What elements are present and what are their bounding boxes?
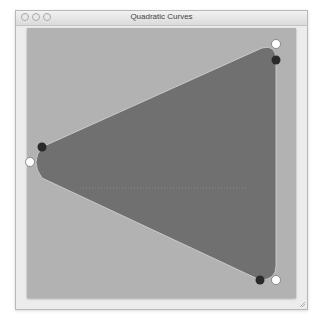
on-curve-point-handle[interactable] [256, 276, 265, 285]
on-curve-point-handle[interactable] [38, 143, 47, 152]
control-point-handle[interactable] [272, 40, 281, 49]
drawing-canvas[interactable] [0, 0, 323, 322]
control-point-handle[interactable] [272, 276, 281, 285]
control-point-handle[interactable] [26, 158, 35, 167]
on-curve-point-handle[interactable] [272, 56, 281, 65]
